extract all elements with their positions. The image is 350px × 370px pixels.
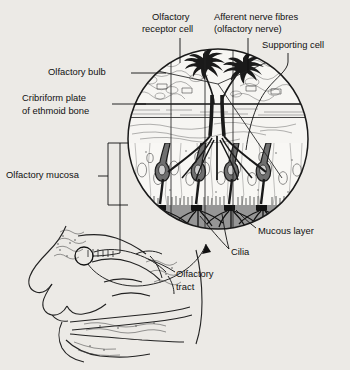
label-olfactory-tract-line1: Olfactory — [176, 268, 214, 279]
label-mucous-layer: Mucous layer — [258, 225, 314, 236]
label-afferent-nerve-fibres-line2: (olfactory nerve) — [214, 23, 282, 34]
cribriform-plate-layer — [128, 104, 308, 118]
submucosa-layer — [128, 118, 308, 143]
label-cribriform-plate-line2: of ethmoid bone — [22, 105, 89, 116]
olfactory-system-diagram: Olfactory receptor cell Afferent nerve f… — [0, 0, 350, 370]
label-olfactory-receptor-cell-line2: receptor cell — [142, 23, 193, 34]
label-cribriform-plate-line1: Cribriform plate — [22, 92, 86, 103]
label-afferent-nerve-fibres-line1: Afferent nerve fibres — [214, 11, 299, 22]
label-olfactory-bulb: Olfactory bulb — [48, 66, 106, 77]
label-olfactory-receptor-cell-line1: Olfactory — [152, 11, 190, 22]
diagram-canvas: Olfactory receptor cell Afferent nerve f… — [0, 0, 350, 370]
label-olfactory-tract-line2: tract — [176, 281, 195, 292]
label-supporting-cell: Supporting cell — [262, 39, 324, 50]
olfactory-mucosa-layer — [128, 143, 308, 205]
label-cilia: Cilia — [231, 246, 250, 257]
label-olfactory-mucosa: Olfactory mucosa — [6, 169, 80, 180]
